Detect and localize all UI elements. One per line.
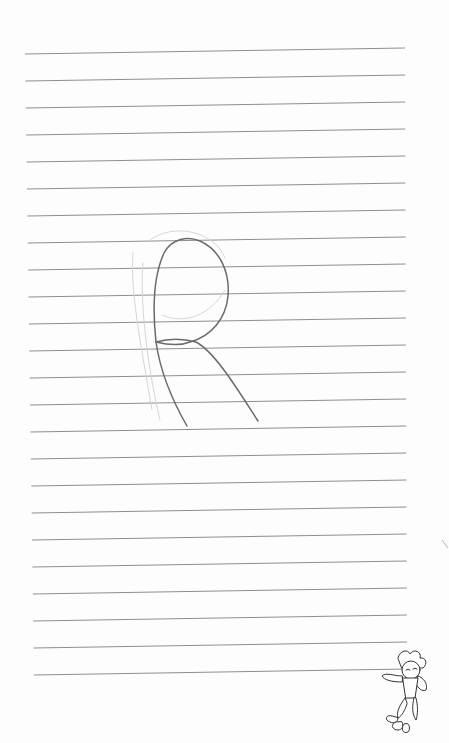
- notebook-page: [0, 0, 449, 743]
- cartoon-character-icon: [0, 0, 449, 743]
- stray-mark: [442, 540, 448, 548]
